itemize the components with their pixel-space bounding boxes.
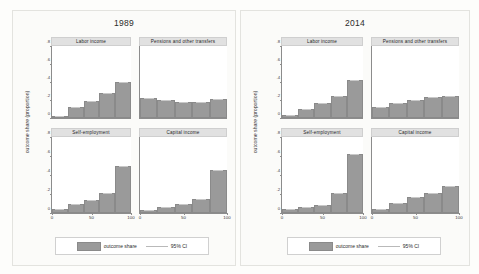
facet-title: Self-employment (51, 128, 131, 137)
bar (389, 203, 406, 213)
y-axis-label-left: outcome share (proportion) (24, 62, 30, 182)
bar (314, 205, 330, 213)
facet-title: Pensions and other transfers (139, 37, 227, 46)
bar (282, 209, 298, 213)
confidence-interval-marker (55, 209, 64, 210)
bar-series (372, 137, 459, 213)
confidence-interval-marker (411, 100, 421, 101)
y-tick-label: .4 (47, 75, 51, 80)
y-tick-label: 0 (48, 111, 50, 116)
bar-series (140, 137, 227, 213)
confidence-interval-marker (103, 93, 112, 94)
bar-swatch-icon (309, 242, 333, 251)
confidence-interval-marker (213, 99, 223, 100)
x-tick-label: 50 (89, 215, 94, 220)
legend-label: 95% CI (171, 243, 187, 249)
bar (99, 193, 115, 213)
confidence-interval-marker (71, 204, 80, 205)
bar (157, 207, 174, 213)
x-tick-label: 0 (139, 215, 141, 220)
figure-title-1989: 1989 (13, 18, 235, 28)
confidence-interval-marker (350, 154, 359, 155)
bar (424, 193, 441, 213)
confidence-interval-marker (318, 205, 327, 206)
bar (52, 209, 68, 213)
confidence-interval-marker (213, 170, 223, 171)
bar-swatch-icon (77, 242, 101, 251)
bar (442, 96, 459, 119)
bar (442, 186, 459, 213)
bar (68, 204, 84, 213)
y-axis-label-right: outcome share (proportion) (252, 62, 258, 182)
bar (298, 109, 314, 118)
bar (282, 115, 298, 118)
confidence-interval-marker (376, 209, 386, 210)
x-tick-label: 0 (371, 215, 373, 220)
x-tick-label: 100 (455, 215, 462, 220)
bar (210, 170, 227, 213)
confidence-interval-marker (334, 96, 343, 97)
line-swatch-icon (146, 246, 168, 247)
facet-title: Capital income (371, 128, 459, 137)
confidence-interval-marker (376, 107, 386, 108)
facet-plot-area: 0 .2 .4 .6 .8 0 50 100 (281, 137, 363, 214)
bar (115, 82, 131, 118)
confidence-interval-marker (393, 103, 403, 104)
bar (424, 97, 441, 118)
legend-label: outcome share (336, 243, 369, 249)
legend-1989: outcome share 95% CI (55, 237, 209, 255)
x-tick-label: 0 (281, 215, 283, 220)
confidence-interval-marker (87, 200, 96, 201)
facet-plot-area (371, 46, 459, 119)
confidence-interval-marker (302, 207, 311, 208)
facet-capital-income-1989: Capital income 0 50 100 (139, 128, 227, 214)
facet-plot-area: 0 .2 .4 .6 .8 (281, 46, 363, 119)
bar (347, 80, 363, 118)
bar (372, 107, 389, 118)
bar (115, 166, 131, 214)
bar (389, 103, 406, 118)
y-tick-label: .4 (47, 168, 51, 173)
facet-pensions-1989: Pensions and other transfers (139, 37, 227, 119)
y-tick-label: 0 (278, 111, 280, 116)
bar (298, 207, 314, 213)
bar (407, 100, 424, 118)
x-tick-label: 100 (223, 215, 230, 220)
confidence-interval-marker (119, 166, 128, 167)
confidence-interval-marker (144, 98, 154, 99)
y-tick-label: .2 (47, 187, 51, 192)
chart-figure-root: 1989 outcome share (proportion) Labor in… (0, 0, 479, 274)
bar (140, 210, 157, 213)
confidence-interval-marker (144, 210, 154, 211)
facet-self-employment-1989: Self-employment 0 .2 .4 .6 .8 0 50 100 (51, 128, 131, 214)
x-tick-label: 100 (127, 215, 134, 220)
confidence-interval-marker (334, 193, 343, 194)
confidence-interval-marker (119, 82, 128, 83)
y-tick-label: .4 (277, 168, 281, 173)
bar (140, 98, 157, 118)
confidence-interval-marker (87, 101, 96, 102)
figure-title-2014: 2014 (241, 18, 469, 28)
confidence-interval-marker (302, 109, 311, 110)
legend-item-outcome-share: outcome share (309, 242, 369, 251)
facet-labor-income-2014: Labor income 0 .2 .4 .6 .8 (281, 37, 363, 119)
confidence-interval-marker (318, 103, 327, 104)
y-tick-label: 0 (278, 206, 280, 211)
x-tick-label: 50 (181, 215, 186, 220)
facet-labor-income-1989: Labor income 0 .2 .4 .6 .8 (51, 37, 131, 119)
x-tick-label: 50 (320, 215, 325, 220)
bar-series (52, 137, 131, 213)
y-tick-label: .6 (277, 57, 281, 62)
y-tick-label: .6 (47, 149, 51, 154)
confidence-interval-marker (196, 102, 206, 103)
bar (192, 199, 209, 213)
confidence-interval-marker (428, 97, 438, 98)
bar (192, 102, 209, 118)
y-tick-label: .4 (277, 75, 281, 80)
confidence-interval-marker (350, 80, 359, 81)
confidence-interval-marker (55, 116, 64, 117)
bar (372, 209, 389, 213)
facet-title: Labor income (51, 37, 131, 46)
confidence-interval-marker (428, 193, 438, 194)
confidence-interval-marker (445, 96, 455, 97)
